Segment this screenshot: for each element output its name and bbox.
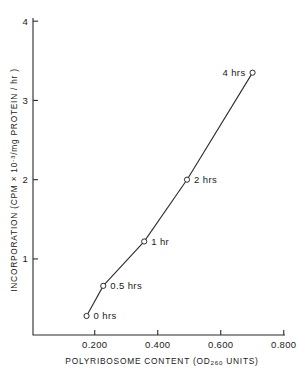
data-point-marker	[250, 70, 255, 75]
x-tick-label: 0.400	[145, 339, 170, 350]
y-tick-label: 1	[22, 253, 28, 264]
axis-lines	[33, 18, 285, 335]
x-tick-label: 0.200	[82, 339, 107, 350]
data-line-segment	[188, 75, 251, 178]
x-tick-label: 0.600	[208, 339, 233, 350]
y-axis-ticks: 1234	[22, 16, 38, 265]
data-series	[88, 75, 251, 314]
data-point-marker	[101, 283, 106, 288]
data-point-label: 4 hrs	[222, 67, 245, 78]
data-point-label: 0.5 hrs	[110, 280, 142, 291]
x-axis-title: POLYRIBOSOME CONTENT (OD260 UNITS)	[65, 356, 258, 366]
y-tick-label: 2	[22, 174, 28, 185]
data-line-segment	[105, 243, 142, 284]
data-point-label: 2 hrs	[194, 174, 217, 185]
axes	[33, 18, 285, 335]
data-point-label: 0 hrs	[94, 310, 117, 321]
data-point-label: 1 hr	[151, 236, 169, 247]
y-axis-title: INCORPORATION (CPM × 10-3/mg PROTEIN / h…	[9, 68, 19, 292]
x-tick-label: 0.800	[271, 339, 296, 350]
y-tick-label: 4	[22, 16, 28, 27]
data-line-segment	[146, 182, 186, 240]
data-point-labels: 0 hrs0.5 hrs1 hr2 hrs4 hrs	[94, 67, 246, 321]
data-point-marker	[84, 313, 89, 318]
x-axis-ticks: 0.2000.4000.6000.800	[82, 330, 296, 350]
data-point-marker	[142, 239, 147, 244]
chart-plot: 0.2000.4000.6000.800 1234 0 hrs0.5 hrs1 …	[0, 0, 307, 372]
figure-container: 0.2000.4000.6000.800 1234 0 hrs0.5 hrs1 …	[0, 0, 307, 372]
data-point-marker	[184, 177, 189, 182]
y-tick-label: 3	[22, 95, 28, 106]
